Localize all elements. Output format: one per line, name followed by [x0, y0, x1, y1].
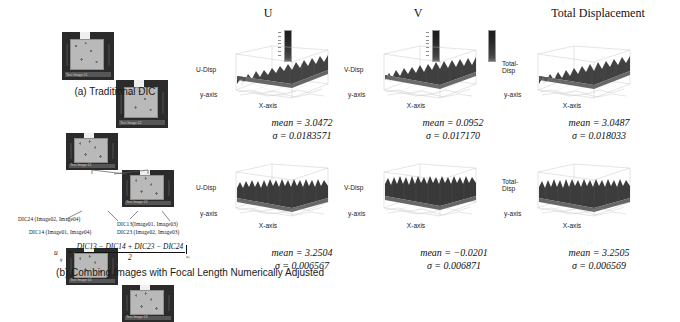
surface-plot-svg [532, 158, 636, 220]
mean-value: mean = 0.0952 [378, 116, 528, 129]
plot-row1-v: V-Disp y-axis X-axis [344, 28, 494, 108]
axis-label-z-line2: Disp [502, 185, 515, 192]
formula-lhs-subscript: ij [60, 257, 63, 262]
axis-label-x: X-axis [386, 102, 446, 109]
displacement-formula: uij = DIC13 − DIC14 + DIC23 − DIC24 2 uᵢ… [54, 242, 190, 262]
axis-label-y: y-axis [200, 91, 217, 98]
surface-plot-svg [230, 158, 334, 220]
sigma-value: σ = 0.018033 [524, 129, 674, 142]
formula-numerator: DIC13 − DIC14 + DIC23 − DIC24 [75, 242, 186, 253]
formula-equals: = [67, 248, 71, 257]
axis-label-y: y-axis [200, 210, 217, 217]
axis-label-z-line2: Disp [502, 67, 515, 74]
stats-row1-total: mean = 3.0487 σ = 0.018033 [524, 116, 674, 142]
sigma-value: σ = 0.006871 [374, 259, 534, 272]
mean-value: mean = 3.2504 [232, 246, 372, 259]
axis-label-x: X-axis [542, 102, 602, 109]
panel-a-photo-left: Test Image 01 [62, 32, 114, 80]
plot-row2-total: Total- Disp y-axis X-axis [484, 152, 644, 232]
image-stamp: Test Image 01 [66, 73, 87, 77]
axis-label-x: X-axis [386, 222, 446, 229]
axis-label-y: y-axis [504, 210, 521, 217]
axis-label-z: U-Disp [196, 184, 216, 191]
stats-row2-v: mean = −0.0201 σ = 0.006871 [374, 246, 534, 272]
sigma-value: σ = 0.006569 [524, 259, 674, 272]
speckle-pattern [70, 39, 103, 71]
dic-label-13: DIC13(Image01, Image03) [117, 221, 178, 227]
axis-label-x: X-axis [542, 222, 602, 229]
plot-row2-u: U-Disp y-axis X-axis [196, 152, 346, 232]
speckle-pattern [130, 290, 163, 314]
sigma-value: σ = 0.017170 [378, 129, 528, 142]
formula-eval-tag: uᵢⱼ [186, 254, 190, 259]
axis-label-z: Total- Disp [502, 178, 518, 193]
axis-label-y: y-axis [504, 91, 521, 98]
formula-evaluation-bar: uᵢⱼ [186, 245, 190, 259]
stats-row2-total: mean = 3.2505 σ = 0.006569 [524, 246, 674, 272]
surface-plot-canvas [230, 158, 334, 220]
surface-plot-svg [230, 40, 334, 102]
plot-row1-u: U-Disp y-axis X-axis [196, 28, 346, 108]
axis-label-x: X-axis [238, 102, 298, 109]
formula-lhs: u [54, 248, 58, 257]
fixture-post-right [108, 44, 110, 65]
mean-value: mean = 3.2505 [524, 246, 674, 259]
formula-fraction: DIC13 − DIC14 + DIC23 − DIC24 2 [75, 242, 186, 262]
sigma-value: σ = 0.0183571 [232, 129, 372, 142]
surface-plot-svg [532, 40, 636, 102]
pairing-connectors [66, 133, 176, 213]
surface-plot-canvas [378, 158, 482, 220]
axis-label-z: V-Disp [344, 184, 363, 191]
fixture-post-right [168, 295, 170, 311]
surface-plot-canvas [378, 40, 482, 102]
dic-label-23: DIC23 (Image02, Image03) [117, 229, 179, 235]
vertical-bar [186, 245, 187, 254]
column-header-total-displacement: Total Displacement [528, 6, 668, 21]
plot-row2-v: V-Disp y-axis X-axis [344, 152, 494, 232]
panel-a-caption: (a) Traditional DIC [25, 86, 205, 97]
axis-label-y: y-axis [348, 210, 365, 217]
axis-label-z-line1: Total- [502, 60, 518, 67]
panel-a-photo-pair: Test Image 01 Test Image 02 [62, 32, 168, 80]
surface-plot-canvas [532, 40, 636, 102]
mean-value: mean = −0.0201 [374, 246, 534, 259]
axis-label-z: V-Disp [344, 66, 363, 73]
axis-label-z: Total- Disp [502, 60, 518, 75]
image-stamp: Test Image 02 [120, 121, 141, 125]
surface-plot-canvas [230, 40, 334, 102]
axis-label-z-line1: Total- [502, 178, 518, 185]
plot-row1-total: Total- Disp y-axis X-axis [484, 28, 644, 108]
dic-label-14: DIC14 (Image01, Image04) [29, 229, 91, 235]
dic-label-24: DIC24 (Image02, Image04) [18, 216, 80, 222]
fixture-post-left [66, 44, 68, 65]
image-stamp: Test Image 03 [126, 315, 147, 319]
fixture-post-left [126, 295, 128, 311]
image-stamp: Test Image 04 [70, 278, 91, 282]
surface-plot-svg [378, 40, 482, 102]
stats-row1-u: mean = 3.0472 σ = 0.0183571 [232, 116, 372, 142]
surface-plot-svg [378, 158, 482, 220]
panel-b-photo-03: Test Image 03 [122, 285, 174, 322]
axis-label-x: X-axis [238, 222, 298, 229]
panel-b-photo-grid: Test Image 01 Test Image 02 Test Image 0… [66, 133, 176, 213]
axis-label-y: y-axis [348, 91, 365, 98]
formula-denominator: 2 [128, 253, 132, 263]
mean-value: mean = 3.0472 [232, 116, 372, 129]
axis-label-z: U-Disp [196, 66, 216, 73]
sigma-value: σ = 0.006567 [232, 259, 372, 272]
colorbar [488, 30, 496, 62]
stats-row2-u: mean = 3.2504 σ = 0.006567 [232, 246, 372, 272]
column-header-v: V [398, 6, 438, 21]
column-header-u: U [248, 6, 288, 21]
stats-row1-v: mean = 0.0952 σ = 0.017170 [378, 116, 528, 142]
surface-plot-canvas [532, 158, 636, 220]
mean-value: mean = 3.0487 [524, 116, 674, 129]
